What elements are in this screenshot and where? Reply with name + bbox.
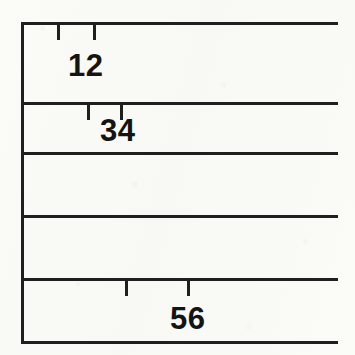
rule-6-bottom: [21, 341, 338, 344]
label-56: 56: [170, 303, 205, 334]
left-border-rule: [21, 22, 24, 344]
tick-row5-b: [187, 278, 190, 296]
rule-3: [21, 152, 338, 155]
rule-4: [21, 215, 338, 218]
tick-row1-b: [93, 22, 96, 40]
label-34: 34: [100, 115, 135, 146]
label-12: 12: [68, 50, 103, 81]
rule-1-top: [21, 22, 338, 25]
diagram-canvas: 12 34 56: [0, 0, 355, 355]
rule-5: [21, 278, 338, 281]
rule-2: [21, 102, 338, 105]
tick-row1-a: [57, 22, 60, 40]
tick-row5-a: [125, 278, 128, 296]
tick-row2-a: [87, 102, 90, 120]
